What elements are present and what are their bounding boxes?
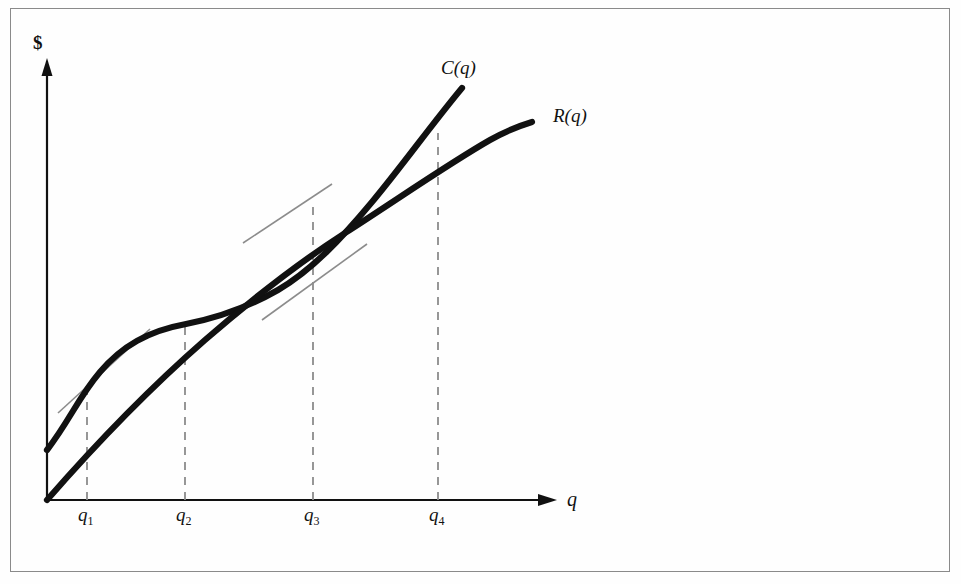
plot-area (0, 0, 961, 584)
y-axis (42, 58, 53, 500)
cost-curve-label: C(q) (441, 58, 476, 77)
x-axis-label: q (567, 489, 577, 509)
tick-label-q3-sub: 3 (314, 514, 320, 528)
tangent-lines (58, 184, 367, 413)
revenue-curve-label: R(q) (553, 106, 587, 125)
tick-label-q1-sub: 1 (88, 514, 94, 528)
tick-label-q3-base: q (304, 504, 314, 525)
tick-label-q4-base: q (429, 504, 439, 525)
tick-label-q4-sub: 4 (439, 514, 445, 528)
tick-label-q2: q2 (176, 505, 192, 524)
cost-curve (47, 88, 462, 450)
revenue-curve (47, 122, 532, 500)
tick-label-q4: q4 (429, 505, 445, 524)
tick-label-q2-sub: 2 (186, 514, 192, 528)
tangent-q3-revenue-line (243, 184, 332, 243)
y-axis-label: $ (33, 33, 43, 52)
tick-label-q1-base: q (78, 504, 88, 525)
tick-label-q2-base: q (176, 504, 186, 525)
x-axis (47, 494, 557, 506)
figure-canvas: $ q C(q) R(q) q1 q2 q3 q4 (0, 0, 961, 584)
tick-label-q3: q3 (304, 505, 320, 524)
tick-label-q1: q1 (78, 505, 94, 524)
